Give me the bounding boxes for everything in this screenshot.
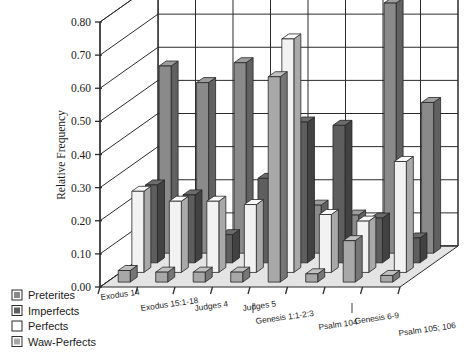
y-tick-label: 0.60 bbox=[71, 82, 91, 94]
y-tick-label: 0.10 bbox=[71, 248, 91, 260]
x-category-label: Exodus 15:1-18 bbox=[140, 295, 199, 313]
legend-item-preterites: Preterites bbox=[12, 289, 76, 301]
chart-y-tick-labels: 0.000.100.200.300.400.500.600.700.80 bbox=[71, 16, 91, 293]
legend-label: Waw-Perfects bbox=[28, 336, 97, 348]
x-category-label: Exodus 14 bbox=[100, 287, 141, 302]
x-category-label: Genesis 1:1-2:3 bbox=[255, 308, 315, 326]
legend-label: Imperfects bbox=[28, 305, 80, 317]
bar-perfects-exodus-14 bbox=[132, 186, 151, 272]
y-tick-label: 0.30 bbox=[71, 182, 91, 194]
x-category-label: Psalm 104 bbox=[318, 317, 359, 332]
y-tick-label: 0.80 bbox=[71, 16, 91, 28]
bar-perfects-psalm-104 bbox=[319, 209, 338, 272]
legend-item-perfects: Perfects bbox=[12, 320, 69, 332]
x-category-label: Judges 4 bbox=[194, 298, 229, 313]
bar-waw-perfects-genesis-1-1-2-3 bbox=[268, 72, 287, 282]
bar-perfects-judges-5 bbox=[244, 200, 263, 273]
x-category-label: Genesis 6-9 bbox=[354, 310, 400, 326]
y-tick-label: 0.40 bbox=[71, 149, 91, 161]
y-tick-label: 0.70 bbox=[71, 49, 91, 61]
bar-perfects-psalm-105-106 bbox=[394, 156, 413, 272]
chart-legend: PreteritesImperfectsPerfectsWaw-Perfects bbox=[12, 289, 97, 348]
bar-waw-perfects-genesis-6-9 bbox=[343, 236, 362, 282]
bar-waw-perfects-exodus-14 bbox=[118, 265, 137, 282]
legend-label: Perfects bbox=[28, 320, 69, 332]
y-tick-label: 0.50 bbox=[71, 115, 91, 127]
chart-category-labels: Exodus 14Exodus 15:1-18Judges 4Judges 5G… bbox=[98, 287, 457, 338]
legend-item-waw-perfects: Waw-Perfects bbox=[12, 336, 97, 348]
legend-swatch-fill bbox=[14, 339, 20, 345]
legend-item-imperfects: Imperfects bbox=[12, 305, 80, 317]
legend-swatch-fill bbox=[14, 292, 20, 298]
legend-swatch-fill bbox=[14, 308, 20, 314]
bar-chart-figure: 0.000.100.200.300.400.500.600.700.80 Exo… bbox=[0, 0, 464, 352]
y-tick-label: 0.20 bbox=[71, 215, 91, 227]
legend-swatch bbox=[12, 321, 22, 331]
bar-perfects-exodus-15-1-18 bbox=[169, 196, 188, 272]
bar-perfects-judges-4 bbox=[207, 196, 226, 272]
legend-label: Preterites bbox=[28, 289, 76, 301]
chart-canvas: 0.000.100.200.300.400.500.600.700.80 Exo… bbox=[0, 0, 464, 352]
x-category-label: Judges 5 bbox=[242, 298, 277, 313]
x-category-label: Psalm 105; 106 bbox=[398, 320, 457, 338]
bar-preterites-psalm-105-106 bbox=[422, 97, 441, 253]
y-axis-title: Relative Frequency bbox=[55, 110, 68, 200]
